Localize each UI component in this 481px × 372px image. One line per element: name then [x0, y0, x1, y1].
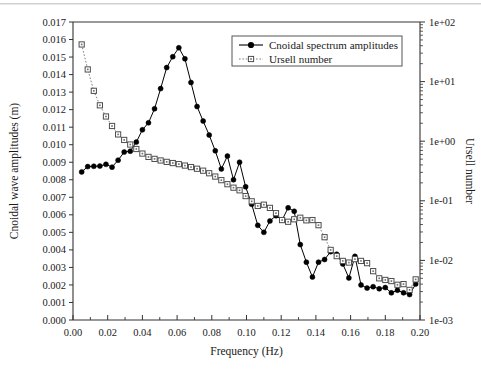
data-point-square-center — [281, 219, 283, 221]
scan-artifact-line — [0, 3, 481, 5]
x-tick-label: 0.12 — [272, 327, 290, 338]
data-point-square-center — [214, 176, 216, 178]
data-point-square-center — [299, 217, 301, 219]
data-point-square-center — [111, 125, 113, 127]
data-point-square-center — [123, 139, 125, 141]
data-point-square-center — [330, 249, 332, 251]
data-point-square-center — [227, 183, 229, 185]
data-point-square-center — [354, 258, 356, 260]
y-tick-label-left: 0.005 — [42, 227, 66, 238]
data-point-square-center — [385, 279, 387, 281]
y-tick-label-left: 0.004 — [42, 244, 66, 255]
data-point-circle — [225, 154, 230, 159]
data-point-circle — [219, 166, 224, 171]
data-point-circle — [286, 205, 291, 210]
data-point-square-center — [360, 260, 362, 262]
data-point-square-center — [336, 255, 338, 257]
data-point-square-center — [208, 172, 210, 174]
data-point-square-center — [136, 148, 138, 150]
data-point-circle — [395, 288, 400, 293]
data-point-square-center — [93, 90, 95, 92]
data-point-square-center — [312, 219, 314, 221]
data-point-circle — [371, 284, 376, 289]
data-point-circle — [116, 158, 121, 163]
legend-label-1: Ursell number — [269, 53, 333, 65]
data-point-circle — [158, 86, 163, 91]
y-tick-label-left: 0.000 — [42, 315, 66, 326]
y-tick-label-left: 0.002 — [42, 280, 66, 291]
data-point-circle — [146, 120, 151, 125]
data-point-square-center — [397, 284, 399, 286]
y-tick-label-right: 1e-01 — [429, 195, 453, 206]
data-point-square-center — [129, 144, 131, 146]
data-point-square-center — [196, 168, 198, 170]
y-tick-label-left: 0.006 — [42, 209, 66, 220]
data-point-square-center — [81, 44, 83, 46]
y-tick-label-right: 1e+01 — [429, 76, 455, 87]
x-tick-label: 0.06 — [168, 327, 186, 338]
data-point-circle — [79, 169, 84, 174]
y-tick-label-left: 0.010 — [42, 139, 66, 150]
x-tick-label: 0.20 — [411, 327, 429, 338]
data-point-square-center — [409, 289, 411, 291]
data-point-circle — [91, 164, 96, 169]
data-point-square-center — [378, 278, 380, 280]
data-point-square-center — [287, 221, 289, 223]
y-axis-title-left: Cnoidal wave amplitudes (m) — [8, 103, 21, 240]
data-point-square-center — [166, 161, 168, 163]
x-tick-label: 0.00 — [64, 327, 82, 338]
x-tick-label: 0.02 — [99, 327, 117, 338]
data-point-circle — [267, 218, 272, 223]
data-point-circle — [322, 257, 327, 262]
data-point-circle — [103, 162, 108, 167]
data-point-square-center — [403, 283, 405, 285]
series-line-1 — [82, 44, 416, 289]
data-point-square-center — [239, 190, 241, 192]
x-tick-label: 0.04 — [133, 327, 152, 338]
y-tick-label-left: 0.011 — [43, 122, 66, 133]
legend-marker-square-center — [250, 58, 252, 60]
data-point-square-center — [172, 162, 174, 164]
data-point-circle — [261, 230, 266, 235]
x-tick-label: 0.16 — [341, 327, 359, 338]
data-point-square-center — [348, 262, 350, 264]
data-point-circle — [359, 282, 364, 287]
y-tick-label-left: 0.001 — [42, 297, 66, 308]
data-point-circle — [207, 133, 212, 138]
data-point-circle — [401, 290, 406, 295]
data-point-square-center — [263, 204, 265, 206]
data-point-square-center — [190, 166, 192, 168]
y-tick-label-left: 0.003 — [42, 262, 66, 273]
data-point-circle — [97, 164, 102, 169]
y-tick-label-left: 0.014 — [42, 69, 66, 80]
y-tick-label-left: 0.017 — [42, 17, 66, 28]
figure-container: 0.0000.0010.0020.0030.0040.0050.0060.007… — [0, 0, 481, 372]
y-tick-label-right: 1e+00 — [429, 136, 455, 147]
data-point-square-center — [87, 69, 89, 71]
data-point-square-center — [160, 160, 162, 162]
data-point-square-center — [415, 279, 417, 281]
data-point-circle — [310, 275, 315, 280]
y-tick-label-left: 0.007 — [42, 192, 66, 203]
data-point-circle — [134, 140, 139, 145]
data-point-square-center — [293, 218, 295, 220]
data-point-circle — [389, 290, 394, 295]
data-point-square-center — [366, 262, 368, 264]
data-point-circle — [237, 160, 242, 165]
data-point-circle — [110, 165, 115, 170]
y-tick-label-left: 0.013 — [42, 87, 66, 98]
data-point-square-center — [306, 220, 308, 222]
x-tick-label: 0.14 — [307, 327, 326, 338]
data-point-circle — [346, 275, 351, 280]
data-point-square-center — [154, 158, 156, 160]
data-point-square-center — [269, 207, 271, 209]
x-tick-label: 0.18 — [376, 327, 394, 338]
x-tick-label: 0.08 — [203, 327, 221, 338]
data-point-square-center — [184, 165, 186, 167]
data-point-square-center — [105, 116, 107, 118]
y-tick-label-left: 0.012 — [42, 104, 66, 115]
data-point-circle — [164, 65, 169, 70]
data-point-circle — [122, 150, 127, 155]
data-point-circle — [128, 149, 133, 154]
y-tick-label-right: 1e-02 — [429, 255, 453, 266]
